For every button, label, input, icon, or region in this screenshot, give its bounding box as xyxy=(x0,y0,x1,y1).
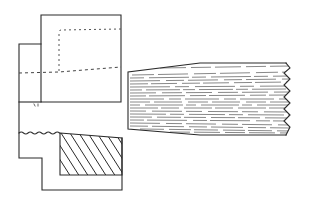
dashed-center-line xyxy=(19,67,121,73)
tapered-piece xyxy=(128,63,290,135)
upper-block-outline xyxy=(41,15,121,102)
hidden-line xyxy=(59,29,121,72)
hatched-outline xyxy=(60,133,122,175)
wavy-joint xyxy=(19,132,60,134)
upper-block xyxy=(19,15,122,190)
hatched-section xyxy=(43,133,143,177)
tick-marks xyxy=(34,104,38,106)
stepped-outline xyxy=(19,44,122,190)
technical-drawing xyxy=(0,0,309,200)
grain-lines xyxy=(130,66,290,133)
